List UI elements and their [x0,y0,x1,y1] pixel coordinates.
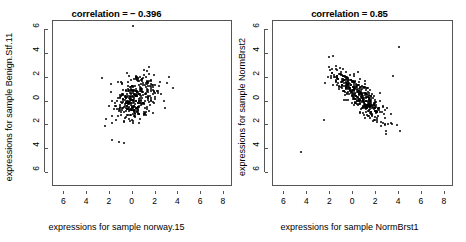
data-point [385,133,387,135]
data-point [374,119,376,121]
data-point [353,75,355,77]
data-point [153,74,155,76]
data-point [358,84,360,86]
data-point [359,78,361,80]
scatter-panel-left: correlation = − 0.396 expressions for sa… [0,0,233,242]
data-point [154,96,156,98]
data-point [117,115,119,117]
y-tick [45,172,48,173]
data-point [136,95,138,97]
data-point-outlier [118,141,120,143]
data-point [327,76,329,78]
data-point [324,82,326,84]
data-point [399,130,401,132]
x-tick [398,191,399,194]
data-point-outlier [166,82,168,84]
y-tick [45,29,48,30]
data-point [369,117,371,119]
data-point [366,104,368,106]
scatter-points-left [53,21,231,185]
scatter-panel-right: correlation = 0.85 expressions for sampl… [233,0,466,242]
y-tick [45,53,48,54]
y-tick-label: 2 [30,72,42,82]
data-point [342,75,344,77]
data-point [328,66,330,68]
data-point [148,110,150,112]
y-tick-label: 2 [250,72,262,82]
data-point [134,115,136,117]
data-point [134,103,136,105]
x-axis-label-left: expressions for sample norway.15 [0,222,233,232]
x-tick [155,191,156,194]
x-tick [375,191,376,194]
x-tick [444,191,445,194]
x-tick-label: 2 [102,196,116,206]
data-point [345,84,347,86]
data-point [347,99,349,101]
x-tick-label: 8 [437,196,451,206]
y-tick-label: 4 [250,143,262,153]
data-point [123,111,125,113]
data-point [384,109,386,111]
data-point [138,100,140,102]
data-point [133,89,135,91]
x-tick [63,191,64,194]
data-point [120,81,122,83]
data-point [119,97,121,99]
data-point [349,90,351,92]
x-tick [109,191,110,194]
data-point [120,114,122,116]
data-point [358,81,360,83]
data-point [335,65,337,67]
data-point [387,123,389,125]
data-point [172,87,174,89]
x-tick-label: 4 [170,196,184,206]
data-point [116,100,118,102]
data-point [150,100,152,102]
y-tick-label: 4 [30,48,42,58]
data-point [149,85,151,87]
data-point [129,109,131,111]
x-tick-label: 2 [322,196,336,206]
data-point [132,120,134,122]
data-point [146,108,148,110]
panel-title-right: correlation = 0.85 [233,8,466,19]
data-point [125,116,127,118]
data-point [374,110,376,112]
data-point [105,118,107,120]
data-point [137,109,139,111]
data-point [158,85,160,87]
data-point [396,124,398,126]
data-point [361,88,363,90]
data-point [369,89,371,91]
x-tick [200,191,201,194]
y-tick [45,77,48,78]
data-point [149,95,151,97]
data-point-outlier [300,151,302,153]
x-tick-label: 0 [125,196,139,206]
data-point [370,111,372,113]
y-tick-label: 6 [30,24,42,34]
data-point-outlier [123,142,125,144]
data-point [365,96,367,98]
data-point [379,92,381,94]
data-point [115,119,117,121]
data-point [139,118,141,120]
data-point [371,114,373,116]
x-axis-label-right: expressions for sample NormBrst1 [233,222,466,232]
data-point [114,102,116,104]
y-tick-label: 4 [30,143,42,153]
data-point [353,98,355,100]
data-point [343,99,345,101]
data-point [144,113,146,115]
data-point [168,76,170,78]
data-point [384,117,386,119]
y-tick [265,29,268,30]
data-point [126,72,128,74]
data-point [152,112,154,114]
data-point [111,115,113,117]
data-point [339,67,341,69]
y-tick-label: 2 [250,119,262,129]
data-point [330,77,332,79]
data-point [329,69,331,71]
